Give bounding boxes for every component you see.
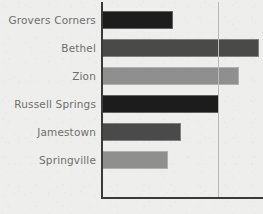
bar-springville[interactable] <box>102 151 168 169</box>
category-label-zion: Zion <box>0 62 96 90</box>
gridline-vertical <box>218 2 219 198</box>
category-label-russell-springs: Russell Springs <box>0 90 96 118</box>
bar-bethel[interactable] <box>102 39 259 57</box>
category-label-jamestown: Jamestown <box>0 118 96 146</box>
chart-row: Russell Springs <box>0 90 263 118</box>
bar-jamestown[interactable] <box>102 123 181 141</box>
category-label-springville: Springville <box>0 146 96 174</box>
category-label-grovers-corners: Grovers Corners <box>0 6 96 34</box>
bar-russell-springs[interactable] <box>102 95 219 113</box>
bar-chart: Grovers Corners Bethel Zion Russell Spri… <box>0 0 263 214</box>
chart-row: Grovers Corners <box>0 6 263 34</box>
category-label-bethel: Bethel <box>0 34 96 62</box>
chart-row: Springville <box>0 146 263 174</box>
x-axis <box>101 197 263 199</box>
chart-row: Jamestown <box>0 118 263 146</box>
chart-row: Zion <box>0 62 263 90</box>
bar-grovers-corners[interactable] <box>102 11 173 29</box>
chart-row: Bethel <box>0 34 263 62</box>
y-axis <box>101 2 103 199</box>
